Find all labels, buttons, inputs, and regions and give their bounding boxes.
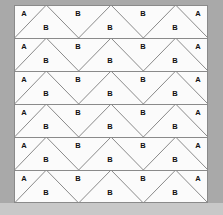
cell-label-b: B (43, 23, 49, 32)
cell-label-b: B (75, 108, 81, 117)
cell-label-b: B (140, 174, 146, 183)
cell-label-b: B (140, 75, 146, 84)
cell-label-a: A (195, 75, 201, 84)
cell-label-b: B (107, 89, 113, 98)
cell-label-b: B (75, 42, 81, 51)
cell-label-a: A (21, 141, 27, 150)
cell-label-a: A (195, 108, 201, 117)
cell-label-b: B (172, 56, 178, 65)
cell-label-a: A (195, 9, 201, 18)
cell-label-b: B (75, 174, 81, 183)
cell-label-b: B (172, 122, 178, 131)
tiling-panel: ABBBBBAABBBBBAABBBBBAABBBBBAABBBBBAABBBB… (14, 5, 208, 203)
cell-label-a: A (195, 141, 201, 150)
cell-label-b: B (75, 141, 81, 150)
figure-footer-band (0, 203, 223, 215)
cell-label-b: B (107, 188, 113, 197)
cell-label-b: B (107, 122, 113, 131)
cell-label-b: B (172, 188, 178, 197)
cell-label-a: A (21, 108, 27, 117)
cell-label-b: B (107, 56, 113, 65)
cell-label-b: B (43, 122, 49, 131)
cell-label-b: B (172, 89, 178, 98)
cell-label-b: B (43, 188, 49, 197)
cell-label-b: B (140, 42, 146, 51)
cell-label-a: A (21, 75, 27, 84)
cell-label-b: B (43, 89, 49, 98)
cell-label-b: B (172, 155, 178, 164)
cell-label-b: B (107, 155, 113, 164)
cell-label-b: B (107, 23, 113, 32)
cell-label-b: B (75, 9, 81, 18)
cell-label-b: B (75, 75, 81, 84)
cell-label-b: B (140, 9, 146, 18)
cell-label-b: B (43, 56, 49, 65)
cell-label-a: A (21, 174, 27, 183)
tiling-diagram: ABBBBBAABBBBBAABBBBBAABBBBBAABBBBBAABBBB… (14, 5, 208, 203)
cell-label-b: B (140, 141, 146, 150)
cell-label-a: A (195, 174, 201, 183)
cell-label-b: B (140, 108, 146, 117)
cell-label-b: B (43, 155, 49, 164)
cell-label-b: B (172, 23, 178, 32)
cell-label-a: A (21, 9, 27, 18)
cell-label-a: A (21, 42, 27, 51)
cell-label-a: A (195, 42, 201, 51)
